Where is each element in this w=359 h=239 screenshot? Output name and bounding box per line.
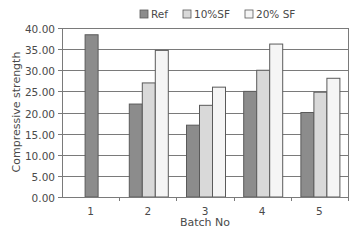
bar-ref-batch-5 [301, 113, 314, 198]
bar-ref-batch-3 [187, 125, 200, 197]
legend-swatch-icon [183, 10, 191, 18]
y-tick-label: 10.00 [25, 150, 55, 162]
y-tick-label: 0.00 [32, 192, 55, 204]
legend-label: 10%SF [194, 8, 230, 20]
bar-ref-batch-1 [85, 35, 98, 197]
bar-ref-batch-4 [244, 91, 257, 197]
bar-series [85, 35, 340, 197]
y-tick-label: 5.00 [32, 171, 55, 183]
legend-swatch-icon [245, 10, 253, 18]
bar-10sf-batch-2 [142, 83, 155, 197]
legend-swatch-icon [140, 10, 148, 18]
x-tick-label: 4 [259, 205, 266, 217]
legend: Ref10%SF20% SF [140, 8, 295, 20]
x-tick-label: 5 [316, 205, 323, 217]
bar-10sf-batch-4 [257, 70, 270, 197]
bar-20sf-batch-2 [155, 50, 168, 197]
y-axis-tick-labels: 0.005.0010.0015.0020.0025.0030.0035.0040… [25, 23, 55, 204]
y-tick-label: 20.00 [25, 108, 55, 120]
bar-chart: 0.005.0010.0015.0020.0025.0030.0035.0040… [0, 0, 359, 239]
bar-20sf-batch-3 [213, 87, 226, 197]
bar-10sf-batch-5 [314, 92, 327, 197]
x-tick-label: 2 [144, 205, 151, 217]
bar-20sf-batch-5 [327, 78, 340, 197]
bar-ref-batch-2 [129, 104, 142, 197]
y-tick-label: 25.00 [25, 86, 55, 98]
x-tick-label: 1 [87, 205, 94, 217]
y-tick-label: 40.00 [25, 23, 55, 35]
y-tick-label: 35.00 [25, 44, 55, 56]
legend-label: Ref [151, 8, 168, 20]
y-tick-label: 30.00 [25, 65, 55, 77]
y-axis-title: Compressive strength [10, 52, 23, 173]
bar-10sf-batch-3 [200, 105, 213, 197]
x-axis-title: Batch No [180, 216, 230, 229]
legend-label: 20% SF [256, 8, 295, 20]
bar-20sf-batch-4 [270, 44, 283, 197]
y-tick-label: 15.00 [25, 129, 55, 141]
